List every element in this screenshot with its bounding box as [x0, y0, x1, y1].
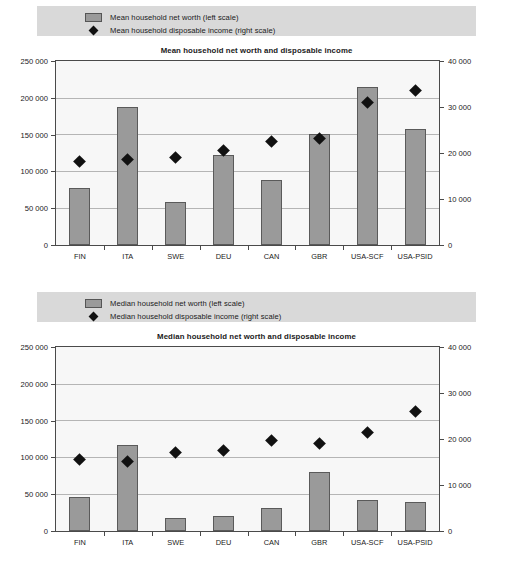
bar-can [261, 180, 282, 245]
legend-label-marker: Median household disposable income (righ… [110, 312, 281, 321]
x-tickmark [391, 246, 392, 250]
y-axis-tick-right: 20 000 [448, 435, 471, 444]
bar-fin [69, 497, 90, 531]
y-tickmark-left [51, 457, 55, 458]
x-axis-label-ita: ITA [122, 538, 133, 547]
bar-usa-scf [357, 500, 378, 532]
marker-swe [169, 151, 182, 164]
y-tickmark-right [440, 245, 444, 246]
y-tickmark-right [440, 347, 444, 348]
y-axis-tick-left: 250 000 [0, 57, 48, 66]
y-axis-tick-left: 100 000 [0, 453, 48, 462]
legend-median: Median household net worth (left scale) … [37, 292, 476, 322]
legend-label-bar: Mean household net worth (left scale) [110, 13, 238, 22]
y-tickmark-right [440, 393, 444, 394]
diamond-swatch-icon [85, 313, 102, 320]
bar-swe [165, 202, 186, 245]
bar-usa-psid [405, 502, 426, 531]
x-tickmark [248, 532, 249, 536]
x-axis-label-usa-scf: USA-SCF [351, 538, 383, 547]
y-tickmark-left [51, 347, 55, 348]
x-tickmark [248, 246, 249, 250]
marker-usa-psid [409, 405, 422, 418]
y-tickmark-right [440, 199, 444, 200]
y-tickmark-left [51, 421, 55, 422]
marker-can [265, 435, 278, 448]
y-tickmark-right [440, 107, 444, 108]
x-axis-label-swe: SWE [167, 538, 184, 547]
y-axis-tick-right: 10 000 [448, 480, 471, 489]
x-axis-label-can: CAN [264, 538, 280, 547]
y-axis-tick-left: 100 000 [0, 167, 48, 176]
y-axis-tick-left: 50 000 [0, 489, 48, 498]
legend-row-bar: Mean household net worth (left scale) [37, 11, 476, 24]
x-tickmark [295, 532, 296, 536]
y-tickmark-left [51, 384, 55, 385]
x-tickmark [104, 246, 105, 250]
x-tickmark [200, 532, 201, 536]
y-axis-tick-left: 50 000 [0, 203, 48, 212]
x-axis-label-can: CAN [264, 252, 280, 261]
gridline [56, 384, 439, 385]
x-tickmark [343, 246, 344, 250]
bar-can [261, 508, 282, 531]
bar-deu [213, 516, 234, 531]
chart-title-mean: Mean household net worth and disposable … [0, 46, 513, 55]
x-axis-label-swe: SWE [167, 252, 184, 261]
x-axis-label-ita: ITA [122, 252, 133, 261]
y-axis-tick-left: 200 000 [0, 94, 48, 103]
y-axis-tick-left: 250 000 [0, 343, 48, 352]
gridline [56, 98, 439, 99]
y-axis-tick-right: 0 [448, 240, 452, 249]
y-tickmark-right [440, 61, 444, 62]
x-axis-label-gbr: GBR [311, 538, 327, 547]
x-tickmark [104, 532, 105, 536]
y-tickmark-left [51, 135, 55, 136]
legend-row-marker: Mean household disposable income (right … [37, 24, 476, 37]
y-axis-tick-left: 0 [0, 526, 48, 535]
gridline [56, 208, 439, 209]
marker-gbr [313, 437, 326, 450]
bar-swatch-icon [85, 299, 102, 308]
plot-area-mean [55, 60, 440, 246]
marker-fin [74, 155, 87, 168]
legend-label-marker: Mean household disposable income (right … [110, 26, 275, 35]
bar-deu [213, 155, 234, 245]
gridline [56, 134, 439, 135]
gridline [56, 420, 439, 421]
x-tickmark [295, 246, 296, 250]
y-axis-tick-right: 30 000 [448, 389, 471, 398]
legend-row-bar: Median household net worth (left scale) [37, 297, 476, 310]
x-tickmark [343, 532, 344, 536]
y-axis-tick-left: 0 [0, 240, 48, 249]
x-tickmark [152, 532, 153, 536]
x-axis-label-usa-psid: USA-PSID [398, 538, 433, 547]
y-tickmark-right [440, 531, 444, 532]
diamond-swatch-icon [85, 27, 102, 34]
y-tickmark-left [51, 531, 55, 532]
y-axis-tick-right: 20 000 [448, 149, 471, 158]
legend-row-marker: Median household disposable income (righ… [37, 310, 476, 323]
marker-usa-psid [409, 84, 422, 97]
legend-mean: Mean household net worth (left scale) Me… [37, 6, 476, 36]
x-tickmark [152, 246, 153, 250]
marker-deu [217, 444, 230, 457]
chart-page: Mean household net worth (left scale) Me… [0, 0, 513, 567]
y-axis-tick-left: 150 000 [0, 130, 48, 139]
y-axis-tick-right: 30 000 [448, 103, 471, 112]
y-axis-tick-right: 10 000 [448, 194, 471, 203]
marker-fin [74, 453, 87, 466]
gridline [56, 494, 439, 495]
x-axis-label-fin: FIN [74, 538, 86, 547]
x-axis-label-deu: DEU [216, 252, 232, 261]
x-tickmark [391, 532, 392, 536]
bar-ita [117, 107, 138, 245]
bar-fin [69, 188, 90, 245]
y-axis-tick-left: 200 000 [0, 380, 48, 389]
y-tickmark-right [440, 485, 444, 486]
y-tickmark-right [440, 153, 444, 154]
y-axis-tick-right: 40 000 [448, 343, 471, 352]
y-tickmark-left [51, 98, 55, 99]
bar-gbr [309, 134, 330, 245]
x-tickmark [200, 246, 201, 250]
